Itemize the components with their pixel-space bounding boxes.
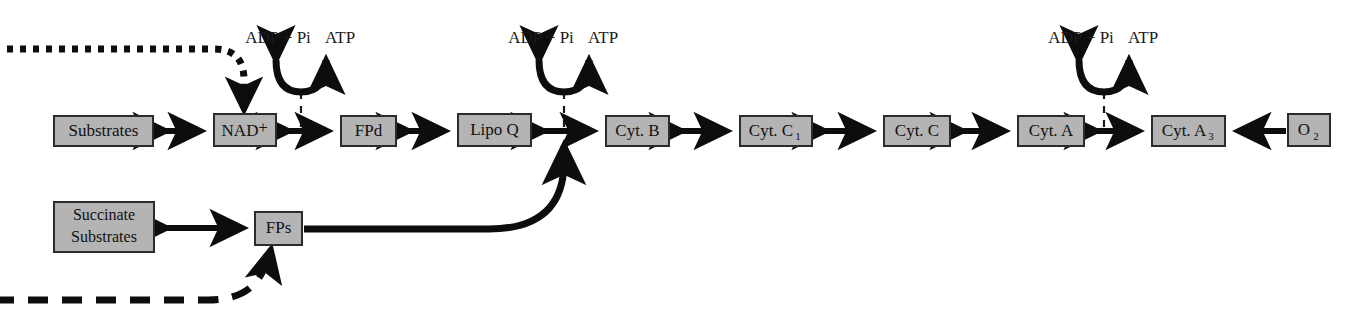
- atp-site-3-curve: [1079, 60, 1129, 92]
- node-cytc[interactable]: Cyt. C: [884, 116, 950, 146]
- node-cytc1[interactable]: Cyt. C 1: [740, 116, 812, 146]
- adp-pi-label-1: ADP + Pi: [245, 28, 311, 47]
- atp-label-3: ATP: [1128, 28, 1158, 47]
- node-cyta-label: Cyt. A: [1029, 121, 1074, 140]
- fps-to-chain-curve-path: [304, 146, 564, 229]
- fadh-dashed-feed-path: [0, 249, 271, 300]
- atp-label-1: ATP: [325, 28, 355, 47]
- node-cytc-label: Cyt. C: [895, 121, 939, 140]
- node-succinate-substrates[interactable]: Succinate Substrates: [54, 202, 154, 252]
- node-nad[interactable]: NAD +: [214, 114, 276, 146]
- node-cyta3[interactable]: Cyt. A 3: [1152, 116, 1225, 146]
- node-fps-label: FPs: [266, 218, 292, 237]
- node-substrates-label: Substrates: [69, 121, 139, 140]
- node-lipoq-label: Lipo Q: [470, 120, 519, 139]
- nadh-dotted-feed-path: [0, 49, 244, 110]
- node-cyta[interactable]: Cyt. A: [1018, 116, 1084, 146]
- node-o2-label: O: [1298, 120, 1310, 139]
- adp-pi-label-3: ADP + Pi: [1048, 28, 1114, 47]
- node-cyta3-label: Cyt. A: [1162, 121, 1207, 140]
- electron-transport-chain-diagram: ADP + Pi ATP ADP + Pi ATP ADP + Pi ATP: [0, 0, 1355, 322]
- diagram-canvas: ADP + Pi ATP ADP + Pi ATP ADP + Pi ATP: [0, 0, 1355, 322]
- node-succinate-line2: Substrates: [71, 228, 137, 245]
- node-fpd[interactable]: FPd: [341, 116, 396, 146]
- node-cytb[interactable]: Cyt. B: [606, 116, 669, 146]
- node-nad-superscript: +: [258, 118, 268, 137]
- node-lipoq[interactable]: Lipo Q: [458, 114, 531, 146]
- node-substrates[interactable]: Substrates: [54, 116, 153, 146]
- adp-pi-label-2: ADP + Pi: [508, 28, 574, 47]
- node-nad-label: NAD: [222, 121, 259, 140]
- node-o2[interactable]: O 2: [1288, 114, 1330, 146]
- atp-site-2-curve: [539, 60, 589, 92]
- node-cyta3-subscript: 3: [1208, 130, 1214, 142]
- node-cytb-label: Cyt. B: [615, 121, 659, 140]
- node-fpd-label: FPd: [355, 121, 383, 140]
- node-fps[interactable]: FPs: [255, 212, 302, 245]
- node-o2-subscript: 2: [1313, 130, 1319, 142]
- atp-label-2: ATP: [588, 28, 618, 47]
- node-cytc1-label: Cyt. C: [749, 121, 793, 140]
- atp-site-1-curve: [276, 60, 326, 92]
- node-cytc1-subscript: 1: [795, 130, 801, 142]
- node-succinate-line1: Succinate: [73, 206, 135, 223]
